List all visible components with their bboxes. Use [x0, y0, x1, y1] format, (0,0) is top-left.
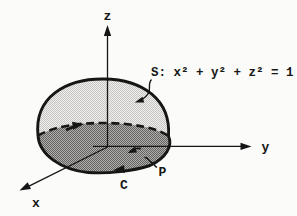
axis-label-z: z — [104, 9, 112, 24]
curve-label-c: C — [120, 178, 128, 193]
axis-label-x: x — [32, 196, 40, 211]
point-label-p: P — [159, 165, 167, 180]
surface-equation-label: S: x² + y² + z² = 1 — [151, 66, 294, 80]
figure-canvas: z y x C P S: x² + y² + z² = 1 — [0, 0, 297, 216]
axis-label-y: y — [262, 140, 270, 155]
figure: z y x C P S: x² + y² + z² = 1 — [0, 0, 297, 216]
